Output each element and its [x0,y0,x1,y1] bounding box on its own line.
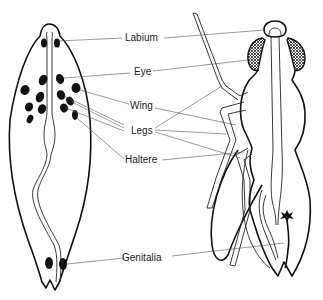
fly-hindleg [230,148,252,266]
leg-spot-r3 [59,102,70,113]
label-eye: Eye [134,66,152,77]
eye-leader-left [64,73,130,78]
labels: Labium Eye Wing Legs Haltere Genitalia [122,32,162,263]
label-labium: Labium [125,32,158,43]
wing-spot-left [19,83,32,96]
fly-eye-right [287,38,305,70]
wing-spot-right [72,83,81,93]
fly-body [241,70,311,276]
leg-spot-r1 [55,89,66,101]
embryo-figure [9,24,91,290]
genitalia-leader-left [67,258,124,264]
leg-spot-l1 [34,90,46,103]
fly-eye-left [248,38,265,71]
legs-leader-r1 [155,86,222,128]
fly-dorsal-line-1 [271,37,276,225]
labium-leader-right [164,30,264,38]
fly-dorsal-line-2 [278,37,282,225]
genitalia-spot-left [45,257,53,269]
legs-leader-r3 [155,132,240,158]
diagram-canvas: Labium Eye Wing Legs Haltere Genitalia [0,0,323,300]
labium-spot-right [54,39,60,48]
genitalia-spot-right [59,258,67,270]
fly-head [264,21,286,37]
fly-wing [211,150,262,260]
labium-leader-left [59,38,122,41]
leg-spot-l2 [23,101,34,113]
labium-spot-left [41,39,47,48]
label-wing: Wing [130,100,153,111]
fly-genital-duct [285,220,289,268]
eye-leader-right [153,60,248,71]
embryo-outline [9,24,91,290]
embryo-central-canal [33,32,57,282]
haltere-spot-left [25,114,34,125]
label-legs: Legs [131,125,153,136]
eye-spot-right [55,73,66,85]
fly-proboscis [269,28,281,35]
label-genitalia: Genitalia [122,252,162,263]
leg-spot-l3 [36,103,47,115]
label-haltere: Haltere [125,154,158,165]
fly-gut-outline [259,190,276,260]
adult-fly-figure [193,13,310,276]
legs-leader-r2 [155,130,226,134]
legs-leader-l2 [72,102,124,128]
embryo-central-canal-inner [38,32,61,282]
fly-gut-inner [263,195,278,258]
wing-leader-right [155,108,236,125]
